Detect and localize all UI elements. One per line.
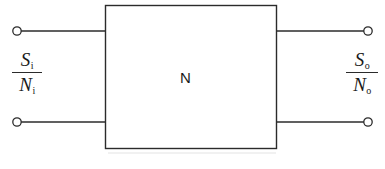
- network-diagram-svg: [0, 0, 385, 169]
- network-block-rectangle: [106, 6, 277, 149]
- input-terminal-bottom-icon: [13, 118, 21, 126]
- input-terminal-top-icon: [13, 27, 21, 35]
- output-terminal-top-icon: [364, 27, 372, 35]
- figure-canvas: N Si Ni So No: [0, 0, 385, 169]
- output-terminal-bottom-icon: [364, 118, 372, 126]
- scan-artifact: [108, 152, 276, 154]
